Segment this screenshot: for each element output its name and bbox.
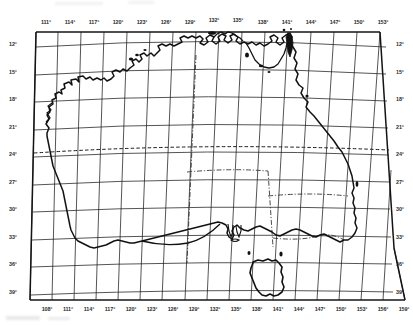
- meridian-132: [207, 32, 219, 300]
- longitude-tick-label-top-12: 147°: [330, 19, 341, 25]
- parallel-21: [34, 124, 388, 130]
- parallel-27: [33, 180, 390, 185]
- longitude-tick-label-bottom-13: 147°: [315, 306, 326, 312]
- longitude-tick-label-top-10: 141°: [282, 19, 293, 25]
- parallel-33: [32, 235, 391, 240]
- longitude-tick-label-bottom-4: 120°: [126, 306, 137, 312]
- king-island: [248, 251, 251, 255]
- meridian-147: [317, 32, 334, 300]
- australia-map-figure: 111°114°117°120°123°126°129°132°135°138°…: [0, 0, 413, 327]
- torres-island-1: [283, 29, 286, 32]
- island-3: [143, 49, 146, 51]
- meridian-123: [140, 32, 150, 300]
- longitude-tick-label-top-1: 114°: [65, 19, 75, 25]
- australia-coastline: [46, 33, 357, 248]
- latitude-tick-label-right-7: 33°: [396, 234, 404, 240]
- latitude-tick-label-right-5: 27°: [396, 179, 404, 185]
- border-qld-nsw: [268, 194, 348, 196]
- latitude-tick-label-right-4: 24°: [396, 151, 404, 157]
- meridian-129: [185, 32, 196, 300]
- latitude-tick-label-right-1: 15°: [396, 69, 404, 75]
- latitude-tick-label-left-4: 24°: [9, 151, 17, 157]
- longitude-tick-label-top-8: 135°: [233, 17, 244, 23]
- longitude-tick-label-top-14: 153°: [378, 19, 389, 25]
- longitude-tick-label-bottom-11: 141°: [273, 306, 284, 312]
- latitude-tick-label-right-8: 36°: [396, 261, 404, 267]
- latitude-tick-label-left-5: 27°: [9, 179, 17, 185]
- longitude-tick-label-top-4: 123°: [137, 19, 148, 25]
- island-2: [135, 54, 139, 56]
- parallel-15: [35, 69, 386, 75]
- fraser-island: [356, 181, 359, 187]
- parallel-18: [35, 97, 387, 102]
- meridian-117: [96, 32, 104, 300]
- whitsunday-island: [305, 95, 308, 97]
- map-canvas: [0, 0, 413, 327]
- latitude-tick-label-left-2: 18°: [9, 96, 17, 102]
- parallel-36: [31, 263, 392, 267]
- frame-left: [30, 32, 36, 300]
- meridian-135: [229, 32, 242, 300]
- longitude-tick-label-top-6: 129°: [185, 19, 196, 25]
- longitude-tick-label-bottom-5: 123°: [147, 306, 158, 312]
- great-australian-bight: [142, 224, 220, 245]
- torres-strait-islands: [283, 28, 292, 31]
- groote-eylandt: [245, 52, 249, 57]
- latitude-tick-label-right-3: 21°: [396, 124, 404, 130]
- border-sa-qld-nsw: [268, 171, 273, 247]
- latitude-tick-label-right-6: 30°: [396, 206, 404, 212]
- latitude-tick-label-left-1: 15°: [9, 69, 17, 75]
- longitude-tick-label-top-11: 144°: [306, 19, 317, 25]
- longitude-tick-label-bottom-16: 156°: [378, 306, 389, 312]
- longitude-tick-label-bottom-1: 111°: [63, 306, 73, 312]
- meridian-126: [162, 32, 173, 300]
- latitude-tick-label-left-6: 30°: [9, 206, 17, 212]
- longitude-tick-label-bottom-12: 144°: [294, 306, 305, 312]
- latitude-tick-label-right-9: 39°: [396, 289, 404, 295]
- gulf-of-carpentaria: [246, 43, 287, 68]
- island-1: [129, 58, 133, 61]
- bass-strait-islands: [248, 251, 283, 257]
- frame-right-upper: [380, 32, 394, 248]
- flinders-island: [279, 251, 282, 256]
- longitude-tick-label-bottom-14: 150°: [336, 306, 347, 312]
- torres-island-2: [290, 28, 292, 30]
- longitude-tick-label-bottom-2: 114°: [84, 306, 94, 312]
- longitude-tick-label-bottom-8: 132°: [210, 306, 221, 312]
- latitude-tick-label-right-2: 18°: [396, 96, 404, 102]
- latitude-tick-label-right-0: 12°: [396, 41, 404, 47]
- longitude-tick-label-top-0: 111°: [41, 19, 51, 25]
- parallel-24: [34, 152, 389, 157]
- kimberley-islands: [129, 49, 147, 61]
- longitude-tick-label-bottom-0: 108°: [42, 306, 53, 312]
- latitude-tick-label-left-0: 12°: [9, 41, 17, 47]
- longitude-tick-label-bottom-10: 138°: [252, 306, 263, 312]
- latitude-tick-label-left-9: 39°: [9, 289, 17, 295]
- border-nt-sa: [187, 170, 268, 172]
- longitude-tick-label-bottom-3: 117°: [105, 306, 115, 312]
- longitude-tick-label-top-13: 150°: [354, 19, 365, 25]
- longitude-tick-label-bottom-17: 159°: [399, 306, 410, 312]
- latitude-tick-label-left-3: 21°: [9, 124, 17, 130]
- meridian-153: [361, 32, 380, 300]
- longitude-tick-label-bottom-6: 126°: [168, 306, 179, 312]
- border-wa-nt-sa: [187, 55, 196, 263]
- mornington-island: [259, 65, 263, 68]
- parallel-39: [31, 291, 393, 295]
- longitude-tick-label-bottom-9: 135°: [231, 306, 242, 312]
- longitude-tick-label-bottom-15: 153°: [357, 306, 368, 312]
- longitude-tick-label-top-7: 132°: [209, 17, 220, 23]
- melville-island: [208, 31, 216, 35]
- gulf-island-small: [268, 71, 271, 73]
- kangaroo-island: [231, 239, 239, 242]
- longitude-tick-label-bottom-7: 129°: [189, 306, 200, 312]
- longitude-tick-label-top-9: 138°: [258, 19, 269, 25]
- longitude-tick-label-top-5: 126°: [161, 19, 172, 25]
- latitude-tick-label-left-7: 33°: [9, 234, 17, 240]
- latitude-tick-label-left-8: 36°: [9, 261, 17, 267]
- longitude-tick-label-top-2: 117°: [89, 19, 99, 25]
- longitude-tick-label-top-3: 120°: [113, 19, 124, 25]
